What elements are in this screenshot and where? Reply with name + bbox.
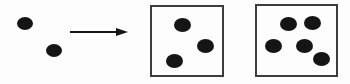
box-five-dots-dot-4 <box>296 39 313 53</box>
dot-count-diagram <box>0 0 350 84</box>
box-three-dots-dot-1 <box>174 18 191 32</box>
box-three-dots-dot-3 <box>166 54 183 68</box>
box-five-dots-dot-3 <box>265 39 282 53</box>
dot-boxes-group <box>0 0 350 84</box>
box-five-dots-dot-2 <box>304 16 321 30</box>
box-five-dots-dot-5 <box>313 52 330 66</box>
box-five-dots <box>255 4 338 77</box>
box-three-dots <box>150 5 224 77</box>
box-five-dots-dot-1 <box>280 17 297 31</box>
box-three-dots-dot-2 <box>197 39 214 53</box>
